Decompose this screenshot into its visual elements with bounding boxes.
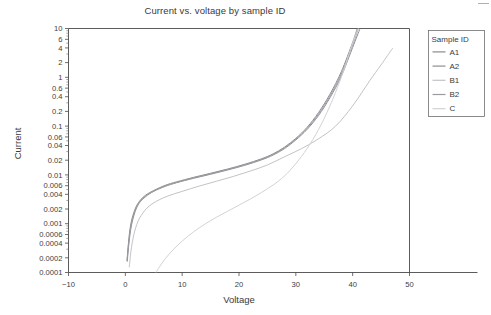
y-tick-label: 0.02: [48, 156, 63, 165]
series-line-c: [156, 29, 358, 273]
legend-group[interactable]: Sample IDA1A2B1B2C: [429, 31, 485, 117]
legend-title: Sample ID: [432, 35, 470, 44]
legend-label-b1[interactable]: B1: [450, 76, 460, 85]
y-tick-label: 4: [58, 44, 62, 53]
y-tick-label: 0.001: [43, 219, 62, 228]
y-tick-label: 0.04: [48, 141, 63, 150]
legend-label-a2[interactable]: A2: [450, 62, 460, 71]
x-tick-label: 50: [405, 280, 413, 289]
y-tick-label: 0.0006: [39, 230, 62, 239]
series-line-a1: [127, 29, 357, 261]
y-tick-label: 0.06: [48, 133, 63, 142]
x-tick-label: 10: [178, 280, 186, 289]
y-tick-label: 0.0002: [39, 254, 62, 263]
y-tick-label: 0.2: [52, 107, 63, 116]
y-tick-label: 10: [54, 24, 62, 33]
x-tick-label: 0: [123, 280, 127, 289]
y-tick-label: 2: [58, 58, 62, 67]
series-group: [127, 29, 392, 273]
y-tick-label: 0.1: [52, 122, 63, 131]
x-tick-label: 30: [292, 280, 300, 289]
y-tick-label: 1: [58, 73, 62, 82]
y-tick-label: 0.002: [43, 205, 62, 214]
plot-svg: −10010203040500.00010.00020.00040.00060.…: [0, 0, 491, 315]
x-tick-label: −10: [62, 280, 75, 289]
y-tick-label: 0.004: [43, 190, 62, 199]
y-tick-label: 0.01: [48, 171, 63, 180]
x-tick-label: 40: [348, 280, 356, 289]
y-tick-label: 6: [58, 35, 62, 44]
legend-label-b2[interactable]: B2: [450, 90, 460, 99]
y-tick-label: 0.4: [52, 92, 63, 101]
series-line-b1: [129, 48, 392, 266]
y-tick-label: 0.0001: [39, 268, 62, 277]
legend-label-c[interactable]: C: [450, 104, 456, 113]
series-line-b2: [127, 29, 358, 261]
chart-figure: Current vs. voltage by sample ID Voltage…: [0, 0, 491, 315]
legend-label-a1[interactable]: A1: [450, 48, 460, 57]
y-tick-label: 0.0004: [39, 239, 62, 248]
x-tick-label: 20: [235, 280, 243, 289]
y-tick-label: 0.6: [52, 84, 63, 93]
series-line-a2: [127, 29, 360, 262]
y-tick-label: 0.006: [43, 181, 62, 190]
axes-group: −10010203040500.00010.00020.00040.00060.…: [39, 24, 477, 288]
